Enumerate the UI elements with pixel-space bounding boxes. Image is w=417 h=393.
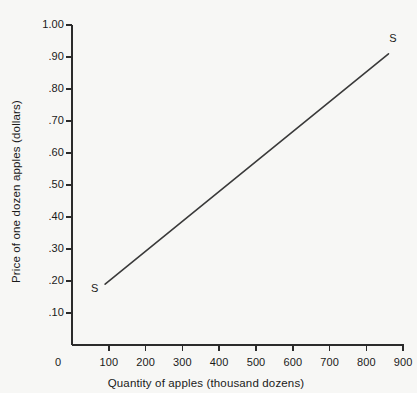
y-tick-label-.70: .70	[18, 114, 64, 126]
y-tick-label-1.00: 1.00	[18, 18, 64, 30]
data-series	[105, 54, 388, 284]
y-tick-label-.30: .30	[18, 242, 64, 254]
y-tick-label-.60: .60	[18, 146, 64, 158]
x-tick-label-100: 100	[89, 356, 129, 368]
y-axis-title: Price of one dozen apples (dollars)	[10, 100, 22, 283]
x-tick-label-600: 600	[273, 356, 313, 368]
x-tick-label-200: 200	[126, 356, 166, 368]
series-line-S	[105, 54, 388, 284]
y-tick-label-.40: .40	[18, 210, 64, 222]
supply-curve-label-upper: S	[389, 32, 396, 44]
supply-curve-label-lower: S	[91, 282, 98, 294]
x-tick-label-400: 400	[199, 356, 239, 368]
x-tick-label-700: 700	[310, 356, 350, 368]
x-axis-title: Quantity of apples (thousand dozens)	[0, 377, 412, 389]
y-tick-label-.90: .90	[18, 50, 64, 62]
x-tick-label-900: 900	[383, 356, 417, 368]
axes	[72, 25, 404, 345]
x-tick-label-500: 500	[236, 356, 276, 368]
y-tick-label-.50: .50	[18, 178, 64, 190]
tick-marks	[66, 25, 403, 351]
x-tick-label-800: 800	[346, 356, 386, 368]
x-tick-label-0: 0	[38, 356, 78, 368]
y-tick-label-.10: .10	[18, 306, 64, 318]
y-tick-label-.80: .80	[18, 82, 64, 94]
x-tick-label-300: 300	[162, 356, 202, 368]
y-tick-label-.20: .20	[18, 274, 64, 286]
